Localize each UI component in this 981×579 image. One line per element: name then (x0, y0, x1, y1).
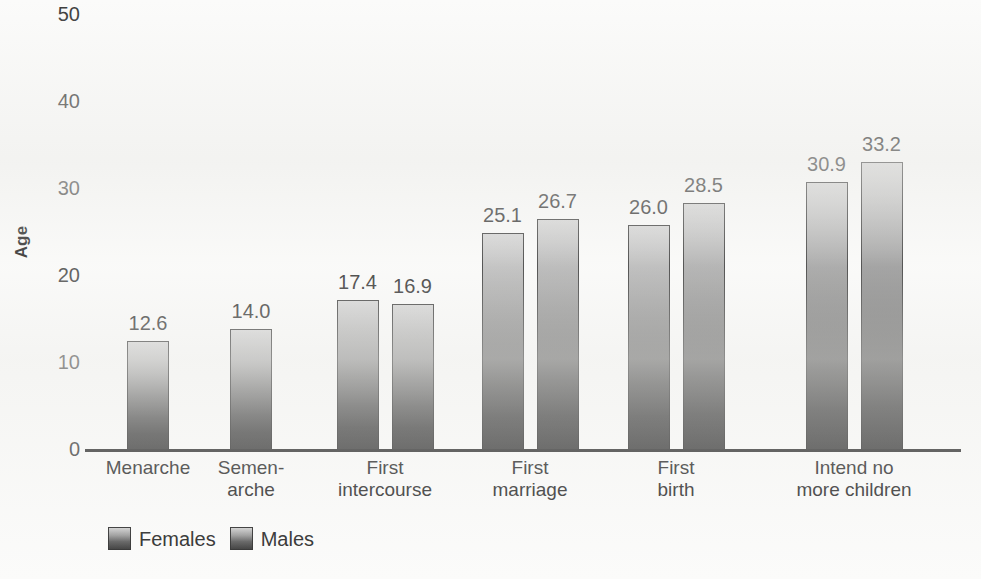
bar-value-label: 26.0 (614, 197, 684, 217)
bar-value-label: 26.7 (523, 191, 593, 211)
legend-swatch-icon (108, 527, 131, 550)
bar-value-label: 14.0 (216, 301, 286, 321)
category-label-intend-no-more-children: Intend nomore children (739, 457, 969, 501)
bar-males-semen-arche (230, 329, 272, 451)
legend-swatch-icon (230, 527, 253, 550)
bar-males-first-marriage (537, 219, 579, 451)
y-axis: 50403020100 (14, 0, 80, 579)
category-label-line: Intend no (739, 457, 969, 479)
legend-item-females[interactable]: Females (108, 527, 216, 550)
bar-females-first-marriage (482, 233, 524, 451)
bar-males-intend-no-more-children (861, 162, 903, 451)
bar-females-intend-no-more-children (806, 182, 848, 451)
bar-value-label: 16.9 (378, 276, 448, 296)
bar-value-label: 33.2 (847, 134, 917, 154)
legend-item-males[interactable]: Males (230, 527, 314, 550)
category-label-line: more children (739, 479, 969, 501)
legend: FemalesMales (108, 527, 314, 550)
legend-label: Males (261, 529, 314, 549)
bar-males-first-intercourse (392, 304, 434, 451)
bar-value-label: 30.9 (792, 154, 862, 174)
bar-females-first-intercourse (337, 300, 379, 451)
bar-males-first-birth (683, 203, 725, 451)
bar-value-label: 28.5 (669, 175, 739, 195)
y-axis-title: Age (12, 226, 32, 259)
y-axis-tick-label: 30 (26, 178, 80, 198)
y-axis-tick-label: 40 (26, 91, 80, 111)
bar-females-first-birth (628, 225, 670, 451)
y-axis-tick-label: 50 (26, 4, 80, 24)
y-axis-tick-label: 10 (26, 352, 80, 372)
y-axis-tick-label: 20 (26, 265, 80, 285)
legend-label: Females (139, 529, 216, 549)
x-axis-line (85, 449, 961, 452)
bar-value-label: 12.6 (113, 313, 183, 333)
bar-females-menarche (127, 341, 169, 451)
plot-area: 12.614.017.416.925.126.726.028.530.933.2 (85, 14, 961, 450)
y-axis-tick-label: 0 (26, 439, 80, 459)
bar-chart: 50403020100 Age 12.614.017.416.925.126.7… (0, 0, 981, 579)
